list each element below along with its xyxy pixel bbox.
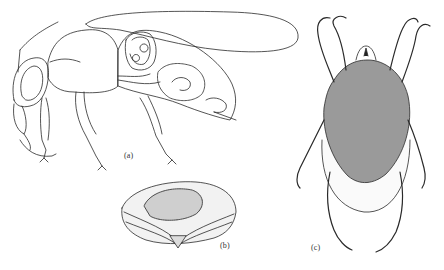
panel-label-c: (c) — [311, 243, 320, 252]
figure-illustration — [0, 0, 444, 270]
panel-b-structure-illustration — [122, 182, 236, 248]
panel-label-a: (a) — [124, 151, 133, 160]
scientific-figure: (a) (b) (c) — [0, 0, 444, 270]
panel-c-mite-illustration — [297, 16, 430, 252]
panel-a-bee-illustration — [13, 11, 298, 170]
panel-label-b: (b) — [220, 241, 230, 250]
